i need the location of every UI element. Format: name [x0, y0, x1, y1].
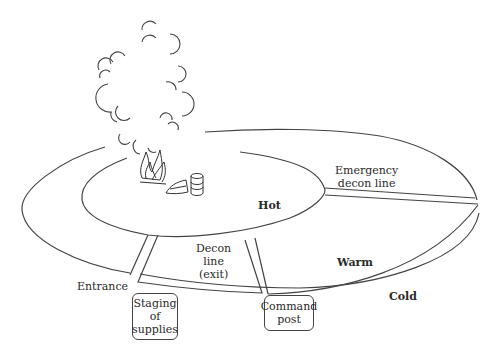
decon-line-label: Decon line (exit)	[196, 242, 231, 281]
decon-line2: line	[196, 255, 231, 268]
emergency-decon-line2: decon line	[335, 177, 398, 190]
smoke-cloud-icon	[96, 21, 194, 154]
cone-icon	[166, 180, 188, 194]
warm-bottom	[268, 205, 478, 294]
staging-line3: supplies	[132, 323, 178, 336]
emergency-decon-label: Emergency decon line	[335, 164, 398, 190]
entrance-label: Entrance	[77, 280, 128, 293]
staging-line2: of	[150, 310, 161, 323]
command-post-box: Command post	[264, 295, 314, 331]
command-line2: post	[277, 313, 301, 326]
outer-ellipse-left	[22, 147, 130, 273]
decon-line1: Decon	[196, 242, 231, 255]
barrel-icon	[191, 174, 203, 196]
fire-icon	[140, 150, 166, 184]
command-line1: Command	[261, 300, 318, 313]
emergency-decon-line1: Emergency	[335, 164, 398, 177]
decon-line3: (exit)	[196, 268, 231, 281]
zone-diagram	[0, 0, 496, 352]
staging-line1: Staging	[133, 297, 176, 310]
inner-ellipse	[82, 152, 325, 236]
hot-zone-label: Hot	[258, 199, 281, 212]
cold-zone-label: Cold	[389, 290, 417, 303]
decon-left-wall	[130, 235, 148, 275]
warm-zone-label: Warm	[337, 256, 373, 269]
staging-of-supplies-box: Staging of supplies	[132, 293, 178, 340]
warm-right-wall	[255, 238, 268, 294]
